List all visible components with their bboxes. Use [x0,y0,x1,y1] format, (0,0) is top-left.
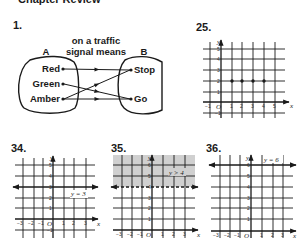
problem-1-mapping-diagram: 1. on a traffic signal means A B Red Gre… [13,19,162,114]
svg-text:−2: −2 [127,231,133,237]
svg-text:4: 4 [49,173,52,179]
svg-text:6: 6 [148,162,151,168]
svg-text:5: 5 [217,46,220,52]
svg-text:2: 2 [247,205,250,211]
svg-text:3: 3 [49,184,52,190]
svg-text:3: 3 [247,195,250,201]
y-axis-label: y [216,38,221,46]
relation-label-line1: on a traffic [72,35,121,46]
problem-35-graph: 35. y > 4 y x O −3−2−1 123 654 321 [111,142,201,239]
problem-number: 1. [13,19,22,31]
svg-text:5: 5 [247,173,250,179]
svg-text:1: 1 [230,103,233,109]
range-item-stop: Stop [134,64,155,75]
svg-text:4: 4 [148,184,151,190]
svg-text:3: 3 [251,103,254,109]
svg-text:1: 1 [247,216,250,222]
svg-text:2: 2 [271,232,274,238]
equation-label: y = 6 [263,156,279,164]
svg-text:−3: −3 [116,231,122,237]
equation-label: y = 3 [70,190,86,198]
svg-text:1: 1 [148,216,151,222]
origin-label: O [244,232,249,240]
svg-text:2: 2 [49,195,52,201]
svg-text:2: 2 [72,220,75,226]
problem-number: 36. [206,142,221,154]
x-axis-label: x [196,231,201,239]
svg-text:−1: −1 [215,110,221,116]
svg-text:6: 6 [247,162,250,168]
svg-text:5: 5 [273,103,276,109]
svg-text:3: 3 [84,220,87,226]
svg-text:3: 3 [217,67,220,73]
review-page: Chapter Review 1. on a traffic signal me… [0,0,302,248]
domain-item-green: Green [33,78,61,89]
svg-text:4: 4 [262,103,265,109]
svg-text:2: 2 [240,103,243,109]
problem-25-graph: 25. y x O −112 345 543 21−1 [196,21,294,118]
chapter-title: Chapter Review [18,0,101,5]
svg-text:1: 1 [161,231,164,237]
domain-item-red: Red [42,63,60,74]
svg-text:2: 2 [217,78,220,84]
range-item-go: Go [134,93,147,104]
svg-text:1: 1 [217,89,220,95]
svg-text:−1: −1 [38,220,44,226]
svg-text:2: 2 [148,205,151,211]
svg-text:−3: −3 [17,220,23,226]
x-axis-label: x [292,232,297,240]
inequality-label: y > 4 [168,169,184,177]
svg-text:3: 3 [183,231,186,237]
svg-text:2: 2 [172,231,175,237]
svg-text:−1: −1 [234,232,240,238]
svg-text:−2: −2 [28,220,34,226]
set-b-label: B [141,46,148,57]
svg-text:−1: −1 [47,227,53,233]
svg-text:−1: −1 [137,231,143,237]
problem-number: 35. [111,142,126,154]
svg-text:1: 1 [62,220,65,226]
relation-label-line2: signal means [66,46,126,57]
svg-text:−1: −1 [205,103,211,109]
grid [211,155,293,238]
svg-text:4: 4 [217,56,220,62]
svg-text:5: 5 [148,173,151,179]
svg-text:−2: −2 [224,232,230,238]
svg-text:3: 3 [148,195,151,201]
problem-34-graph: 34. y = 3 y x O −3−2−1 123 543 21−1 [11,142,101,238]
problem-number: 25. [196,21,211,33]
problem-36-graph: 36. y = 6 y x O −3−2−1 123 654 321 [206,142,297,240]
origin-label: O [146,231,151,239]
problem-number: 34. [11,142,26,154]
svg-text:3: 3 [281,232,284,238]
svg-text:1: 1 [49,205,52,211]
x-axis-label: x [96,220,101,228]
y-axis-label: y [245,154,250,162]
svg-text:1: 1 [260,232,263,238]
x-axis-label: x [289,102,294,110]
set-a-label: A [43,46,50,57]
mapping-arrows [64,69,130,99]
svg-text:4: 4 [247,184,250,190]
svg-text:5: 5 [49,162,52,168]
svg-text:−3: −3 [213,232,219,238]
domain-item-amber: Amber [30,93,60,104]
